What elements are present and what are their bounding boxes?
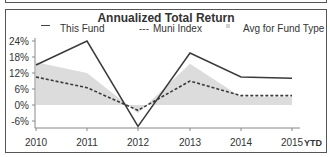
x-tick-label: 2014	[230, 137, 253, 148]
y-tick-label: 6%	[15, 84, 30, 95]
x-tick-label: 2010	[25, 137, 48, 148]
x-tick-label: 2011	[76, 137, 98, 148]
x-tick-label: 2012	[127, 137, 150, 148]
avg-fund-type-area	[36, 62, 292, 113]
plot-area: 24%18%12%6%0%-6%201020112012201320142015…	[0, 0, 330, 157]
ytd-label: YTD	[304, 138, 323, 148]
y-tick-label: -6%	[11, 116, 29, 127]
x-tick-label: 2015	[281, 137, 304, 148]
y-tick-label: 18%	[9, 52, 29, 63]
y-tick-label: 24%	[9, 36, 29, 47]
y-tick-label: 12%	[9, 68, 29, 79]
y-tick-label: 0%	[15, 100, 30, 111]
x-tick-label: 2013	[179, 137, 202, 148]
